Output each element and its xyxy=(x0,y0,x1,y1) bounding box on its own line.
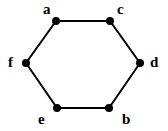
node-c xyxy=(106,17,114,25)
node-label-a: a xyxy=(43,1,51,17)
edge-d-b xyxy=(109,63,140,108)
hexagon-graph: acdbef xyxy=(0,0,168,131)
edges-layer xyxy=(26,21,140,108)
nodes-layer xyxy=(22,17,144,112)
node-e xyxy=(53,104,61,112)
node-b xyxy=(105,104,113,112)
node-a xyxy=(52,17,60,25)
node-label-e: e xyxy=(38,111,45,127)
edge-e-f xyxy=(26,63,57,108)
edge-c-d xyxy=(110,21,140,63)
node-d xyxy=(136,59,144,67)
node-label-b: b xyxy=(122,111,130,127)
node-f xyxy=(22,59,30,67)
node-label-c: c xyxy=(117,1,124,17)
node-label-d: d xyxy=(150,54,159,70)
edge-f-a xyxy=(26,21,56,63)
node-label-f: f xyxy=(8,54,14,70)
